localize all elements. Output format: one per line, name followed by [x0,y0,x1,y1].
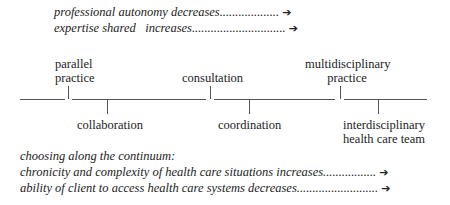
label-line: practice [305,71,389,85]
tick-up [210,86,211,99]
label-multidisciplinary-practice: multidisciplinary practice [305,57,389,85]
label-line: health care team [336,132,432,146]
note-text: professional autonomy decreases [54,5,220,19]
continuum-heading: choosing along the continuum: [20,149,175,163]
tick-up [68,86,69,99]
leader-dots: ................. [323,165,376,179]
note-professional-autonomy: professional autonomy decreases.........… [54,5,291,20]
label-line: coordination [218,118,281,132]
note-expertise-shared: expertise shared increases..............… [54,21,298,36]
label-line: interdisciplinary [336,118,432,132]
continuum-line-segment [72,99,206,100]
label-line: parallel [55,57,95,71]
leader-dots: ................... [220,5,279,19]
note-text: chronicity and complexity of health care… [20,165,323,179]
note-text: ability of client to access health care … [20,181,297,195]
label-interdisciplinary-team: interdisciplinary health care team [336,118,432,146]
arrow-right-icon: ➔ [381,182,390,195]
arrow-right-icon: ➔ [379,166,388,179]
continuum-line-segment [344,99,427,100]
label-consultation: consultation [182,71,243,85]
label-line: consultation [182,71,243,85]
arrow-right-icon: ➔ [289,22,298,35]
tick-up [340,86,341,99]
tick-down [249,99,250,114]
arrow-right-icon: ➔ [282,6,291,19]
label-parallel-practice: parallel practice [55,57,95,85]
label-coordination: coordination [218,118,281,132]
continuum-line-segment [20,99,65,100]
label-line: practice [55,71,95,85]
continuum-line-segment [214,99,335,100]
tick-down [378,99,379,114]
tick-down [107,99,108,114]
label-line: multidisciplinary [305,57,389,71]
note-chronicity: chronicity and complexity of health care… [20,165,389,180]
label-line: collaboration [77,118,143,132]
leader-dots: .......................... [297,181,378,195]
note-client-access: ability of client to access health care … [20,181,390,196]
leader-dots: .............................. [192,21,286,35]
label-collaboration: collaboration [77,118,143,132]
note-text: expertise shared increases [54,21,192,35]
